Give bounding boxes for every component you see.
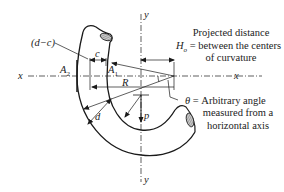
label-x-left: x [18,71,23,82]
label-theta: θ [185,95,190,106]
force-arrow-inward [125,95,141,117]
label-a2: A2 [60,65,70,78]
theta-leader [168,80,178,100]
theta-line1-row: θ = Arbitrary angle [185,96,266,107]
theta-line1: Arbitrary angle [201,95,265,106]
theta-line2: measured from a [193,108,283,119]
label-x-right: x [234,71,239,82]
label-h0: Ho [176,40,187,51]
label-c: c [95,49,100,60]
projected-line2: between the centers [198,40,281,51]
radial-theta-line [84,76,174,109]
projected-line1: Projected distance [181,28,281,39]
label-p: p [144,111,149,122]
label-d-minus-c: (d−c) [31,38,55,49]
theta-line3: horizontal axis [193,121,283,132]
curved-beam-diagram: (d−c) c A2 A1 R d p x x y y Projected di… [0,0,284,192]
label-d: d [95,112,100,123]
label-a1: A1 [108,65,118,78]
label-r: R [122,78,128,89]
label-y-bottom: y [144,175,149,186]
projected-line3: of curvature [181,53,281,64]
label-y-top: y [144,10,149,21]
d-minus-c-leader [55,43,88,59]
